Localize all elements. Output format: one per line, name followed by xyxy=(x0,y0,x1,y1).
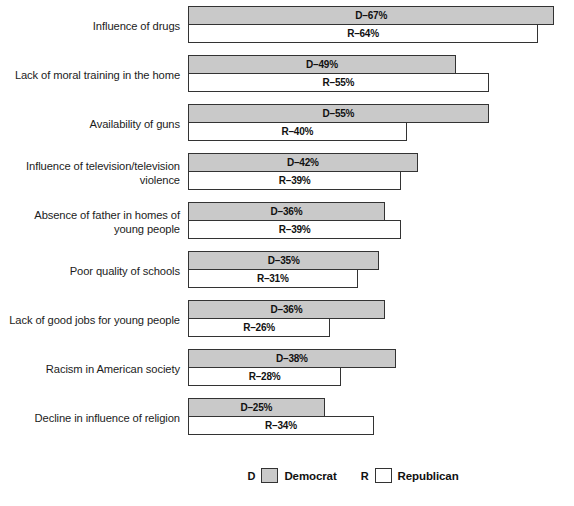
bar-value-label: D–25% xyxy=(240,402,272,413)
category-label: Availability of guns xyxy=(0,104,180,144)
bar-republican: R–40% xyxy=(188,122,407,141)
bar-row: Poor quality of schoolsD–35%R–31% xyxy=(0,251,574,300)
bar-row: Lack of good jobs for young peopleD–36%R… xyxy=(0,300,574,349)
category-label: Racism in American society xyxy=(0,349,180,389)
category-label: Lack of moral training in the home xyxy=(0,55,180,95)
category-label-line: Lack of moral training in the home xyxy=(15,68,180,82)
category-label-line: Influence of television/television xyxy=(26,159,180,173)
bar-pair: D–36%R–39% xyxy=(188,202,401,239)
legend-key-democrat: D xyxy=(247,470,255,482)
bar-value-label: R–40% xyxy=(281,126,313,137)
bar-value-label: D–36% xyxy=(271,304,303,315)
category-label: Lack of good jobs for young people xyxy=(0,300,180,340)
bar-value-label: D–49% xyxy=(306,59,338,70)
category-label-line: Racism in American society xyxy=(46,362,180,376)
bar-value-label: R–34% xyxy=(265,420,297,431)
bar-value-label: R–26% xyxy=(243,322,275,333)
bar-republican: R–34% xyxy=(188,416,374,435)
legend-swatch-democrat-icon xyxy=(261,468,278,483)
category-label: Absence of father in homes ofyoung peopl… xyxy=(0,202,180,242)
bar-chart: Influence of drugsD–67%R–64%Lack of mora… xyxy=(0,0,574,506)
bar-row: Influence of drugsD–67%R–64% xyxy=(0,6,574,55)
bar-value-label: D–38% xyxy=(276,353,308,364)
bar-democrat: D–42% xyxy=(188,153,418,172)
legend-swatch-republican-icon xyxy=(375,468,392,483)
bar-republican: R–39% xyxy=(188,220,401,239)
bar-row: Absence of father in homes ofyoung peopl… xyxy=(0,202,574,251)
category-label-line: Decline in influence of religion xyxy=(35,411,180,425)
bar-pair: D–49%R–55% xyxy=(188,55,489,92)
category-label: Decline in influence of religion xyxy=(0,398,180,438)
bar-democrat: D–36% xyxy=(188,300,385,319)
bar-value-label: R–28% xyxy=(249,371,281,382)
bar-democrat: D–35% xyxy=(188,251,379,270)
bar-value-label: D–67% xyxy=(355,10,387,21)
legend-item-democrat: D Democrat xyxy=(247,468,336,483)
bar-pair: D–36%R–26% xyxy=(188,300,385,337)
bar-pair: D–55%R–40% xyxy=(188,104,489,141)
bar-value-label: R–39% xyxy=(279,175,311,186)
bar-value-label: R–31% xyxy=(257,273,289,284)
bar-pair: D–67%R–64% xyxy=(188,6,554,43)
category-label-line: young people xyxy=(114,222,180,236)
chart-legend: D Democrat R Republican xyxy=(188,468,518,483)
bar-value-label: R–64% xyxy=(347,28,379,39)
bar-row: Availability of gunsD–55%R–40% xyxy=(0,104,574,153)
bar-value-label: R–39% xyxy=(279,224,311,235)
category-label: Influence of drugs xyxy=(0,6,180,46)
category-label: Poor quality of schools xyxy=(0,251,180,291)
bar-republican: R–28% xyxy=(188,367,341,386)
bar-republican: R–31% xyxy=(188,269,358,288)
bar-republican: R–64% xyxy=(188,24,538,43)
legend-item-republican: R Republican xyxy=(361,468,459,483)
bar-democrat: D–67% xyxy=(188,6,554,25)
bar-value-label: D–42% xyxy=(287,157,319,168)
category-label-line: Absence of father in homes of xyxy=(34,208,180,222)
bar-republican: R–26% xyxy=(188,318,330,337)
legend-key-republican: R xyxy=(361,470,369,482)
category-label-line: Poor quality of schools xyxy=(70,264,180,278)
category-label-line: Availability of guns xyxy=(90,117,180,131)
bar-pair: D–35%R–31% xyxy=(188,251,379,288)
legend-label-republican: Republican xyxy=(398,470,459,482)
bar-democrat: D–25% xyxy=(188,398,325,417)
bar-row: Decline in influence of religionD–25%R–3… xyxy=(0,398,574,447)
bar-democrat: D–36% xyxy=(188,202,385,221)
bar-democrat: D–55% xyxy=(188,104,489,123)
bar-value-label: R–55% xyxy=(323,77,355,88)
bar-value-label: D–55% xyxy=(323,108,355,119)
bar-pair: D–38%R–28% xyxy=(188,349,396,386)
bar-value-label: D–36% xyxy=(271,206,303,217)
bar-value-label: D–35% xyxy=(268,255,300,266)
bar-republican: R–39% xyxy=(188,171,401,190)
bar-row: Lack of moral training in the homeD–49%R… xyxy=(0,55,574,104)
bar-rows-container: Influence of drugsD–67%R–64%Lack of mora… xyxy=(0,6,574,447)
category-label-line: Lack of good jobs for young people xyxy=(9,313,180,327)
bar-row: Influence of television/televisionviolen… xyxy=(0,153,574,202)
legend-label-democrat: Democrat xyxy=(284,470,336,482)
bar-pair: D–42%R–39% xyxy=(188,153,418,190)
category-label: Influence of television/televisionviolen… xyxy=(0,153,180,193)
bar-pair: D–25%R–34% xyxy=(188,398,374,435)
bar-republican: R–55% xyxy=(188,73,489,92)
bar-democrat: D–49% xyxy=(188,55,456,74)
category-label-line: violence xyxy=(140,173,180,187)
chart-title-clipped xyxy=(0,0,574,1)
bar-democrat: D–38% xyxy=(188,349,396,368)
bar-row: Racism in American societyD–38%R–28% xyxy=(0,349,574,398)
category-label-line: Influence of drugs xyxy=(93,19,180,33)
